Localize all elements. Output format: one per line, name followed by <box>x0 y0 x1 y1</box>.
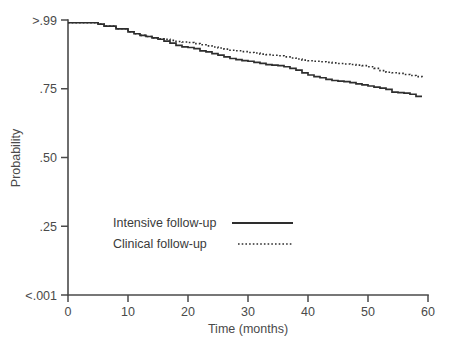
x-axis-ticks: 0102030405060 <box>65 295 435 319</box>
legend-label-2: Clinical follow-up <box>113 237 207 251</box>
x-tick-label: 30 <box>241 305 255 319</box>
y-axis-ticks: >.99.75.50.25<.001 <box>25 14 68 303</box>
y-tick-label: .75 <box>40 82 57 96</box>
x-tick-label: 20 <box>181 305 195 319</box>
series-line-2 <box>68 23 422 78</box>
x-tick-label: 10 <box>121 305 135 319</box>
chart-canvas: >.99.75.50.25<.001 0102030405060 Intensi… <box>0 0 449 350</box>
y-tick-label: >.99 <box>32 14 57 28</box>
x-tick-label: 0 <box>65 305 72 319</box>
x-axis-title: Time (months) <box>208 322 288 336</box>
y-axis-title: Probability <box>9 128 23 187</box>
y-tick-label: .25 <box>40 220 57 234</box>
y-tick-label: <.001 <box>25 289 57 303</box>
x-tick-label: 60 <box>421 305 435 319</box>
x-tick-label: 50 <box>361 305 375 319</box>
x-tick-label: 40 <box>301 305 315 319</box>
survival-curve-chart: >.99.75.50.25<.001 0102030405060 Intensi… <box>0 0 449 350</box>
chart-legend: Intensive follow-upClinical follow-up <box>113 216 293 251</box>
series-line-1 <box>68 23 422 97</box>
data-series <box>68 23 422 97</box>
y-tick-label: .50 <box>40 151 57 165</box>
legend-label-1: Intensive follow-up <box>113 216 217 230</box>
